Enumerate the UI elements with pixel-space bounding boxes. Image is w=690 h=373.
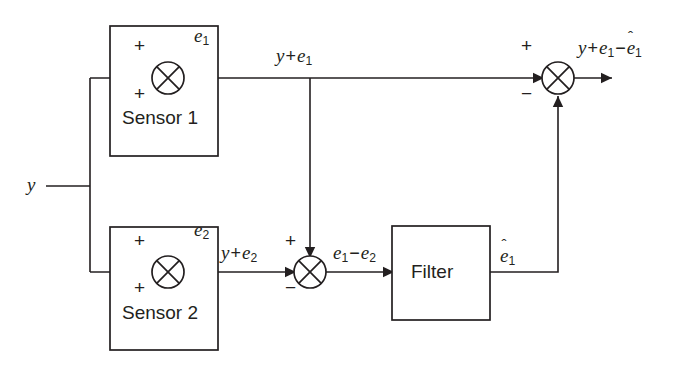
sensor2-noise-label: e2 — [194, 220, 209, 239]
summer-difference — [294, 256, 326, 288]
sensor1-output-label: y+e1 — [276, 46, 312, 65]
summer-difference-minus: − — [285, 278, 296, 297]
summer-sensor1 — [152, 62, 184, 94]
block-diagram-figure: y Sensor 1 Sensor 2 Filter + + + + + − +… — [0, 0, 690, 373]
error-difference-label: e1−e2 — [333, 243, 376, 262]
arrow-final-output-icon — [601, 73, 612, 83]
summer-output-minus: − — [521, 84, 532, 103]
filter-output-label: ˆe1 — [500, 246, 515, 265]
input-signal-label: y — [27, 175, 35, 194]
summer-sensor2 — [152, 256, 184, 288]
summer-sensor1-plus-top: + — [134, 36, 145, 55]
summer-sensor2-plus-bottom: + — [134, 278, 145, 297]
filter-block-label: Filter — [411, 262, 453, 281]
summer-sensor1-plus-bottom: + — [134, 84, 145, 103]
sensor2-block-label: Sensor 2 — [122, 303, 198, 322]
arrow-feedback-up-icon — [553, 96, 563, 107]
sensor1-noise-label: e1 — [194, 26, 209, 45]
sensor2-output-label: y+e2 — [221, 243, 257, 262]
sensor1-block-label: Sensor 1 — [122, 108, 198, 127]
summer-sensor2-plus-top: + — [134, 231, 145, 250]
summer-output-plus: + — [521, 36, 532, 55]
summer-output — [542, 62, 574, 94]
final-output-label: y+e1−ˆe1 — [578, 38, 642, 57]
summer-difference-plus: + — [285, 231, 296, 250]
sensor2-block-rect — [110, 227, 218, 350]
